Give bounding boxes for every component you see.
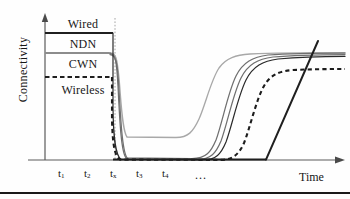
- x-axis-title: Time: [299, 170, 324, 185]
- band-label-ndn: NDN: [52, 37, 114, 52]
- tick-label-t1: t1: [58, 167, 65, 180]
- tick-sub-t1: 1: [61, 172, 65, 180]
- x-axis-arrowhead: [335, 157, 345, 164]
- tick-label-tx: tx: [110, 167, 117, 180]
- y-axis-title: Connectivity: [16, 23, 31, 117]
- band-label-wired: Wired: [52, 17, 114, 32]
- tick-label-t4: t4: [162, 167, 169, 180]
- tick-label-ellipsis: ...: [195, 168, 207, 183]
- linear-ramp-dark: [266, 41, 318, 160]
- tick-label-t3: t3: [136, 167, 143, 180]
- connectivity-time-figure: Connectivity Wired NDN CWN Wireless t1 t…: [0, 0, 350, 199]
- tick-sub-t3: 3: [139, 172, 143, 180]
- tick-sub-t4: 4: [165, 172, 169, 180]
- tick-label-t2: t2: [84, 167, 91, 180]
- tick-sub-t2: 2: [87, 172, 91, 180]
- tick-sub-tx: x: [113, 172, 117, 180]
- band-label-wireless: Wireless: [47, 83, 119, 98]
- bottom-divider: [0, 192, 350, 194]
- recovery-curve-light-gray: [110, 53, 345, 138]
- band-label-cwn: CWN: [52, 57, 114, 72]
- y-axis-arrowhead: [42, 13, 48, 22]
